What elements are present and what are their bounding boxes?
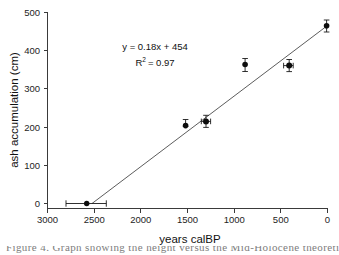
data-marker: [286, 63, 292, 69]
y-tick-label: 300: [24, 83, 40, 94]
y-tick-label: 500: [24, 7, 40, 18]
figure-root: 500 400 300 200 100 0 3000 2500 2000 150…: [0, 0, 339, 255]
y-axis-ticks: [44, 13, 48, 204]
y-tick-label: 100: [24, 160, 40, 171]
data-point: [242, 59, 248, 72]
x-tick-label: 2500: [84, 214, 105, 225]
x-tick-label: 1000: [224, 214, 245, 225]
x-axis-ticks: [48, 209, 328, 213]
x-tick-label: 500: [273, 214, 289, 225]
data-point: [66, 200, 106, 206]
data-marker: [242, 62, 248, 68]
y-tick-label: 200: [24, 122, 40, 133]
data-marker: [203, 118, 209, 124]
data-point: [324, 20, 330, 32]
x-tick-label: 3000: [37, 214, 58, 225]
y-tick-label: 400: [24, 45, 40, 56]
x-tick-label: 2000: [130, 214, 151, 225]
regression-line: [92, 26, 328, 204]
x-tick-label: 0: [325, 214, 330, 225]
figure-caption: Figure 4. Graph showing the height versu…: [6, 246, 336, 253]
r-squared-exponent: 2: [142, 56, 146, 63]
data-point: [201, 115, 210, 127]
r-squared-value: = 0.97: [148, 57, 175, 68]
data-point: [284, 60, 294, 72]
scatter-plot: 500 400 300 200 100 0 3000 2500 2000 150…: [0, 0, 339, 255]
fit-annotation: y = 0.18x + 454 R2= 0.97: [122, 41, 188, 68]
x-tick-label: 1500: [177, 214, 198, 225]
data-points-group: [66, 20, 329, 207]
x-axis-title: years calBP: [159, 233, 221, 245]
y-axis-title: ash accumulation (cm): [8, 52, 20, 168]
r-squared-annotation: R2= 0.97: [135, 56, 174, 68]
data-marker: [84, 201, 89, 206]
data-marker: [183, 123, 189, 129]
fit-equation: y = 0.18x + 454: [122, 41, 188, 52]
figure-caption-strip: Figure 4. Graph showing the height versu…: [0, 246, 339, 255]
data-point: [183, 120, 189, 129]
y-axis-tick-labels: 500 400 300 200 100 0: [24, 7, 40, 209]
y-tick-label: 0: [35, 198, 40, 209]
data-marker: [324, 23, 330, 29]
x-axis-tick-labels: 3000 2500 2000 1500 1000 500 0: [37, 214, 330, 225]
